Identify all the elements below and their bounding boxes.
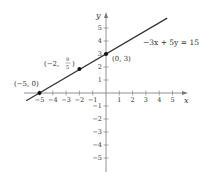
svg-text:(−2,: (−2, (44, 60, 59, 68)
point-label-0-3: (0, 3) (112, 55, 131, 63)
point-label-neg2-9-5: (−2, 9 5 ) (44, 56, 75, 70)
point-neg5-0 (38, 91, 42, 95)
point-0-3 (104, 52, 108, 56)
y-tick-label: 1 (98, 76, 102, 84)
x-tick-label: −3 (61, 96, 71, 104)
point-neg2-9-5 (77, 67, 81, 71)
x-tick-label: −4 (48, 96, 58, 104)
equation-label: −3x + 5y = 15 (143, 38, 199, 47)
y-tick-label: −5 (92, 154, 102, 162)
svg-text:): ) (72, 60, 75, 68)
x-tick-label: 3 (144, 96, 148, 104)
y-tick-label: −4 (92, 141, 102, 149)
y-tick-label: 5 (98, 24, 102, 32)
y-axis-label: y (95, 11, 101, 20)
x-tick-label: 4 (157, 96, 161, 104)
x-tick-label: 2 (131, 96, 135, 104)
svg-text:9: 9 (66, 56, 69, 62)
y-axis-arrow-icon (104, 12, 108, 18)
x-axis-arrow-icon (182, 91, 188, 95)
x-ticks: −5−4−3−2−112345 (35, 91, 175, 105)
x-tick-label: 5 (170, 96, 174, 104)
x-tick-label: −2 (75, 96, 85, 104)
y-tick-label: 4 (98, 37, 102, 45)
line-graph: x y −5−4−3−2−112345 −5−4−3−2−112345 (−5,… (0, 0, 204, 180)
x-tick-label: −5 (35, 96, 45, 104)
y-tick-label: 2 (98, 63, 102, 71)
y-tick-label: −3 (92, 128, 102, 136)
x-tick-label: 1 (117, 96, 121, 104)
point-label-neg5-0: (−5, 0) (14, 80, 39, 88)
x-axis-label: x (184, 96, 189, 105)
svg-text:5: 5 (66, 64, 69, 70)
y-tick-label: −1 (92, 102, 102, 110)
y-tick-label: −2 (92, 115, 102, 123)
